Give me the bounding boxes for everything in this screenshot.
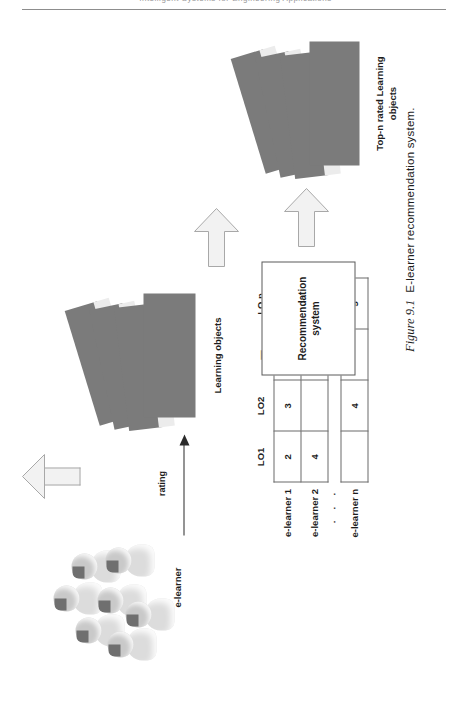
figure-caption-text: E-learner recommendation system.: [404, 107, 416, 292]
document-card: [144, 293, 196, 417]
matrix-col-header-lo1: LO1: [248, 431, 274, 482]
figure-caption-number: Figure 9.1: [403, 300, 417, 352]
topn-label: Top-n rated Learning objects: [374, 23, 400, 183]
block-arrow-right-icon: [284, 187, 330, 247]
matrix-cell: [341, 431, 368, 482]
block-arrow-right-shape: [284, 187, 330, 247]
rating-label: rating: [157, 437, 167, 529]
matrix-row-header: e-learner 2: [301, 482, 328, 537]
thin-arrow-right-icon: [178, 431, 192, 535]
block-arrow-right-shape: [194, 207, 240, 267]
matrix-corner-cell: [248, 482, 274, 537]
matrix-cell: [301, 380, 328, 431]
topn-learning-objects-stack-icon: [248, 27, 368, 177]
page-header-rule: [22, 9, 446, 10]
recommendation-system-box: Recommendation system: [262, 261, 356, 375]
figure-caption: Figure 9.1E-learner recommendation syste…: [403, 107, 418, 352]
matrix-cell: 4: [301, 431, 328, 482]
matrix-cell: 3: [274, 380, 301, 431]
matrix-row-header-ellipsis: · · ·: [328, 482, 341, 537]
page-running-head: Intelligent Systems for Engineering Appl…: [0, 0, 471, 4]
matrix-cell-spacer: [328, 380, 341, 431]
recsys-label-line1: Recommendation: [296, 276, 307, 360]
matrix-cell-spacer: [328, 431, 341, 482]
recsys-label-line2: system: [310, 301, 321, 335]
topn-label-line1: Top-n rated Learning: [374, 56, 385, 150]
figure-rotor: e-learner rating Learning objects: [26, 30, 446, 675]
people-cluster-icon: [54, 525, 162, 657]
block-arrow-up-head: [22, 453, 46, 499]
matrix-row-header: e-learner n: [341, 482, 368, 537]
document-card: [310, 41, 360, 165]
learning-objects-label: Learning objects: [212, 271, 223, 439]
block-arrow-right-icon: [194, 207, 240, 267]
matrix-cell: 2: [274, 431, 301, 482]
matrix-col-header-lo2: LO2: [248, 380, 274, 431]
block-arrow-up-icon: [22, 453, 82, 499]
e-learner-label: e-learner: [172, 539, 183, 635]
topn-label-line2: objects: [386, 86, 397, 119]
matrix-row-header: e-learner 1: [274, 482, 301, 537]
matrix-cell: 4: [341, 380, 368, 431]
figure-canvas: e-learner rating Learning objects: [26, 30, 446, 675]
learning-objects-stack-icon: [82, 281, 200, 429]
